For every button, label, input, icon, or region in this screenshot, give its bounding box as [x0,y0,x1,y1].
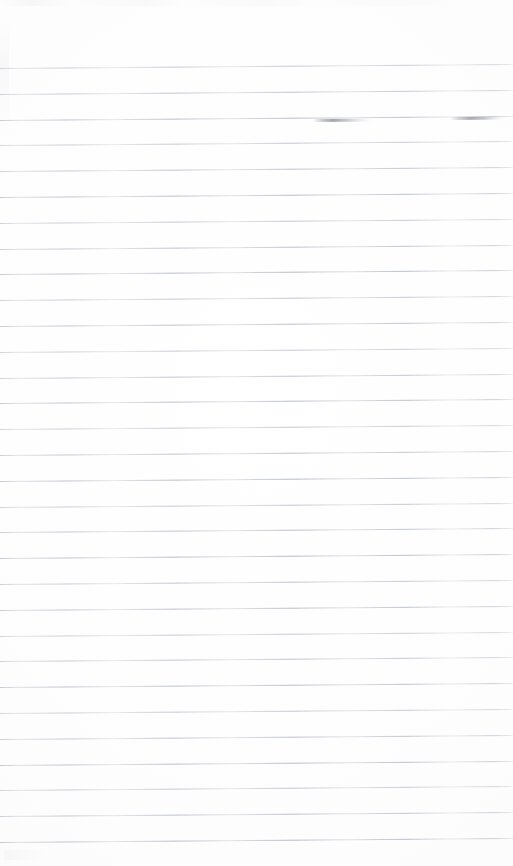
pen-smudge-mark [450,117,502,120]
scanned-page [0,0,513,866]
pen-mark-layer [0,0,513,866]
pen-smudge-mark [313,119,371,122]
